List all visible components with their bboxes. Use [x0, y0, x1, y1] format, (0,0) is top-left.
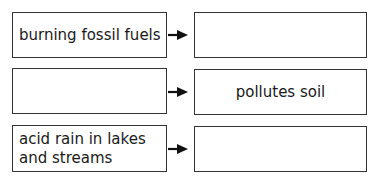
effect-box-1[interactable]: [194, 12, 367, 58]
arrow-icon: [168, 143, 188, 155]
arrow-icon: [168, 86, 188, 98]
effect-box-2[interactable]: pollutes soil: [194, 69, 367, 115]
cause-box-3[interactable]: acid rain in lakes and streams: [12, 125, 167, 172]
cause-text-3: acid rain in lakes and streams: [19, 130, 159, 168]
arrow-icon: [168, 29, 188, 41]
cause-box-1[interactable]: burning fossil fuels: [12, 12, 167, 58]
effect-text-2: pollutes soil: [236, 83, 326, 102]
cause-box-2[interactable]: [12, 68, 167, 114]
effect-box-3[interactable]: [194, 126, 367, 172]
cause-text-1: burning fossil fuels: [19, 26, 161, 45]
